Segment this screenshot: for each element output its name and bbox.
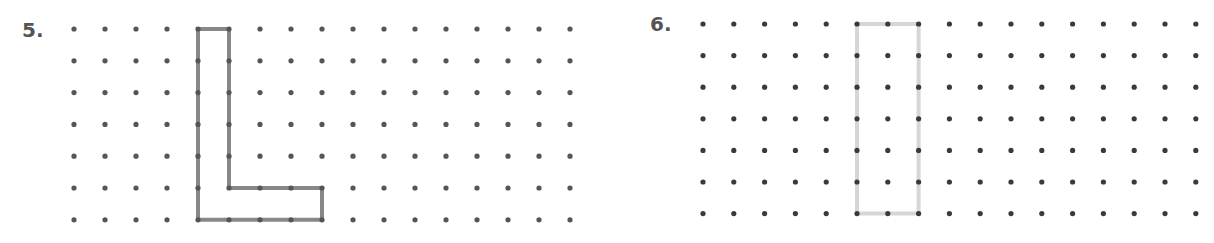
grid-dot: [854, 21, 859, 26]
grid-dot: [947, 53, 952, 58]
grid-dot: [1070, 211, 1075, 216]
grid-dot: [1193, 21, 1198, 26]
grid-dot: [700, 53, 705, 58]
grid-dot: [1193, 211, 1198, 216]
grid-dot: [916, 116, 921, 121]
grid-dot: [824, 148, 829, 153]
dot-grid: [0, 0, 1214, 243]
grid-dot: [1070, 85, 1075, 90]
grid-dot: [854, 116, 859, 121]
grid-dot: [1162, 85, 1167, 90]
grid-dot: [1101, 211, 1106, 216]
grid-dot: [1008, 21, 1013, 26]
grid-dot: [885, 21, 890, 26]
grid-dot: [731, 21, 736, 26]
grid-dot: [978, 148, 983, 153]
grid-dot: [700, 21, 705, 26]
grid-dot: [916, 53, 921, 58]
grid-dot: [1132, 53, 1137, 58]
grid-dot: [916, 211, 921, 216]
grid-dot: [916, 85, 921, 90]
grid-dot: [1193, 53, 1198, 58]
grid-dot: [824, 116, 829, 121]
grid-dot: [885, 53, 890, 58]
grid-dot: [824, 179, 829, 184]
grid-dot: [824, 85, 829, 90]
grid-dot: [700, 116, 705, 121]
grid-dot: [854, 53, 859, 58]
grid-dot: [762, 21, 767, 26]
grid-dot: [1132, 148, 1137, 153]
grid-dot: [1101, 148, 1106, 153]
grid-dot: [1039, 21, 1044, 26]
grid-dot: [1132, 211, 1137, 216]
grid-dot: [1008, 148, 1013, 153]
grid-dot: [793, 21, 798, 26]
grid-dot: [700, 211, 705, 216]
grid-dot: [978, 179, 983, 184]
grid-dot: [978, 53, 983, 58]
grid-dot: [854, 179, 859, 184]
grid-dot: [978, 116, 983, 121]
grid-dot: [700, 179, 705, 184]
grid-dot: [885, 211, 890, 216]
grid-dot: [731, 179, 736, 184]
grid-dot: [885, 148, 890, 153]
grid-dot: [762, 179, 767, 184]
grid-dot: [1070, 148, 1075, 153]
grid-dot: [1070, 21, 1075, 26]
grid-dot: [1008, 85, 1013, 90]
grid-dot: [1162, 211, 1167, 216]
grid-dot: [1132, 85, 1137, 90]
grid-dot: [1039, 53, 1044, 58]
grid-dot: [793, 148, 798, 153]
grid-dot: [1162, 148, 1167, 153]
grid-dot: [947, 85, 952, 90]
grid-dot: [947, 211, 952, 216]
grid-dot: [793, 179, 798, 184]
grid-dot: [793, 85, 798, 90]
grid-dot: [1101, 116, 1106, 121]
grid-dot: [885, 85, 890, 90]
grid-dot: [978, 211, 983, 216]
grid-dot: [1101, 179, 1106, 184]
grid-dot: [731, 211, 736, 216]
grid-dot: [1008, 211, 1013, 216]
grid-dot: [885, 179, 890, 184]
grid-dot: [700, 148, 705, 153]
grid-dot: [1162, 53, 1167, 58]
grid-dot: [947, 116, 952, 121]
grid-dot: [978, 21, 983, 26]
grid-dot: [793, 53, 798, 58]
grid-dot: [1193, 85, 1198, 90]
grid-dot: [885, 116, 890, 121]
grid-dot: [1162, 21, 1167, 26]
grid-dot: [1039, 85, 1044, 90]
grid-dot: [1039, 116, 1044, 121]
grid-dot: [762, 53, 767, 58]
grid-dot: [854, 211, 859, 216]
grid-dot: [1039, 179, 1044, 184]
grid-dot: [1008, 116, 1013, 121]
grid-dot: [1039, 148, 1044, 153]
problem-6: 6.: [0, 0, 1214, 243]
grid-dot: [1193, 148, 1198, 153]
grid-dot: [1162, 116, 1167, 121]
grid-dot: [1132, 21, 1137, 26]
grid-dot: [854, 85, 859, 90]
grid-dot: [762, 148, 767, 153]
grid-dot: [947, 179, 952, 184]
grid-dot: [731, 53, 736, 58]
grid-dot: [1070, 53, 1075, 58]
grid-dot: [1193, 179, 1198, 184]
grid-dot: [1193, 116, 1198, 121]
grid-dot: [762, 116, 767, 121]
grid-dot: [916, 21, 921, 26]
grid-dot: [731, 116, 736, 121]
grid-dot: [824, 21, 829, 26]
grid-dot: [1008, 179, 1013, 184]
grid-dot: [978, 85, 983, 90]
grid-dot: [793, 211, 798, 216]
grid-dot: [762, 211, 767, 216]
grid-dot: [762, 85, 767, 90]
